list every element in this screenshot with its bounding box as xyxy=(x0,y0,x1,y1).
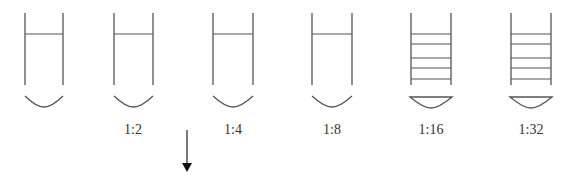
tube-3-label: 1:4 xyxy=(203,122,263,138)
tube-4-label: 1:8 xyxy=(302,122,362,138)
tube-bottom xyxy=(510,97,552,108)
tube-6 xyxy=(510,13,552,108)
tube-1 xyxy=(25,13,63,107)
tube-5-label: 1:16 xyxy=(401,122,461,138)
tube-bottom xyxy=(312,96,352,107)
tube-bottom xyxy=(410,97,452,108)
tube-3 xyxy=(213,13,253,107)
tube-bottom xyxy=(114,96,153,107)
tube-2 xyxy=(114,13,153,107)
tube-2-label: 1:2 xyxy=(103,122,163,138)
tube-bottom xyxy=(213,96,253,107)
tube-5 xyxy=(410,13,452,108)
tube-6-label: 1:32 xyxy=(501,122,561,138)
arrow-down-icon xyxy=(182,130,192,172)
tube-bottom xyxy=(25,96,63,107)
tube-4 xyxy=(312,13,352,107)
dilution-diagram xyxy=(0,0,571,177)
